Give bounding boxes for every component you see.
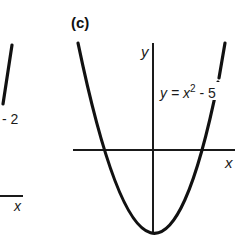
parabola-figure: - 2 x (c) y x y = x2 - 5	[0, 0, 252, 242]
equation-label: y = x2 - 5	[159, 83, 216, 101]
left-x-axis-label: x	[13, 198, 22, 214]
equation-prefix: y = x	[159, 85, 191, 101]
panel-label: (c)	[71, 14, 89, 31]
left-equation-fragment: - 2	[2, 111, 19, 127]
x-axis-label: x	[224, 154, 233, 171]
equation-suffix: - 5	[196, 85, 216, 101]
